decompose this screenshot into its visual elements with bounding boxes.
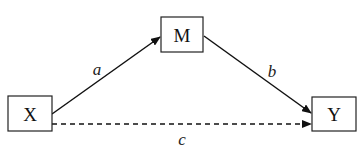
node-x: X xyxy=(8,96,52,131)
edge-label-c: c xyxy=(178,130,186,149)
node-m-label: M xyxy=(174,25,191,46)
edge-c: c xyxy=(52,124,311,148)
node-y: Y xyxy=(312,97,356,131)
edge-b: b xyxy=(204,36,311,113)
node-y-label: Y xyxy=(327,104,341,125)
edge-label-b: b xyxy=(268,62,277,81)
node-x-label: X xyxy=(23,104,37,125)
node-m: M xyxy=(161,17,203,52)
mediation-diagram: a b c X M Y xyxy=(0,0,363,148)
path-a-arrow xyxy=(52,37,160,114)
edge-a: a xyxy=(52,37,160,114)
path-b-arrow xyxy=(204,36,311,113)
edge-label-a: a xyxy=(93,60,102,79)
